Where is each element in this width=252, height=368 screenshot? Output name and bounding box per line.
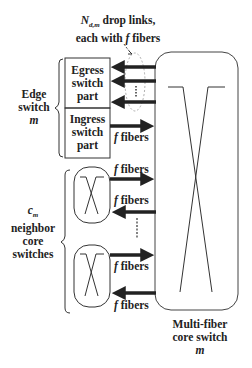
- egress-1: Egress: [65, 64, 110, 77]
- fibers-text: fibers: [118, 299, 149, 311]
- annotation-text2: each with: [76, 32, 126, 44]
- core-switch-crossbar-icon: [168, 87, 225, 292]
- fibers-text: fibers: [118, 194, 149, 206]
- drop-links-annotation: Nd,m drop links, each with f fibers: [68, 14, 168, 45]
- ingress-2: switch: [65, 126, 110, 139]
- core-label-2: core switch: [160, 331, 240, 344]
- edge-switch-label: Edge switch m: [14, 88, 54, 127]
- egress-2: switch: [65, 77, 110, 90]
- core-label-3: m: [196, 344, 205, 356]
- egress-3: part: [65, 90, 110, 103]
- annotation-symbol: N: [81, 14, 89, 26]
- fibers-text: fibers: [118, 163, 149, 175]
- neighbor-switches-label: cm neighbor core switches: [8, 204, 58, 261]
- neighbor-label-2: core: [8, 235, 58, 248]
- fibers-text: fibers: [118, 131, 149, 143]
- neighbor-label-3: switches: [8, 248, 58, 261]
- fibers-text: fibers: [118, 260, 149, 272]
- fiber-label-n1-out: f fibers: [114, 163, 149, 176]
- neighbor-switch-1-crossbar-icon: [80, 177, 104, 214]
- fiber-label-n2-in: f fibers: [114, 299, 149, 312]
- fiber-label-n2-out: f fibers: [114, 260, 149, 273]
- neighbor-label-1: neighbor: [8, 222, 58, 235]
- neighbors-brace: [61, 170, 70, 313]
- annotation-text1: drop links,: [100, 14, 156, 26]
- edge-label-1: Edge: [14, 88, 54, 101]
- neighbor-count-subscript: m: [33, 211, 38, 219]
- edge-label-2: switch: [14, 101, 54, 114]
- ingress-switch-label: Ingress switch part: [65, 113, 110, 152]
- edge-switch-brace: [55, 59, 63, 157]
- core-switch-label: Multi-fiber core switch m: [160, 318, 240, 357]
- egress-switch-label: Egress switch part: [65, 64, 110, 103]
- neighbor-switch-2-crossbar-icon: [80, 254, 104, 296]
- fiber-label-ingress: f fibers: [114, 131, 149, 144]
- annotation-text3: fibers: [129, 32, 160, 44]
- ingress-3: part: [65, 139, 110, 152]
- edge-label-3: m: [30, 114, 39, 126]
- core-label-1: Multi-fiber: [160, 318, 240, 331]
- ingress-1: Ingress: [65, 113, 110, 126]
- diagram-canvas: [0, 0, 252, 368]
- annotation-subscript: d,m: [89, 21, 100, 29]
- fiber-label-n1-in: f fibers: [114, 194, 149, 207]
